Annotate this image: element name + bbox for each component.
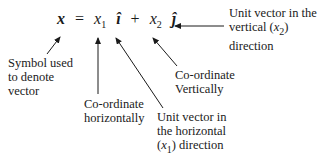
label-symbol: Symbol used to denote vector: [8, 56, 73, 98]
unit-vector-j: ĵ: [172, 10, 176, 27]
coord-x1: x1: [94, 10, 106, 27]
coord-x2: x2: [150, 10, 162, 27]
arrow-coord-v: [153, 38, 177, 66]
plus-sign: +: [131, 10, 140, 27]
unit-vector-i: î: [116, 10, 120, 27]
label-unit-horizontal: Unit vector in the horizontal (x1) direc…: [157, 110, 226, 157]
arrow-symbol: [47, 37, 60, 54]
vector-equation: x = x1 î + x2 ĵ: [57, 10, 176, 30]
label-coord-horizontal: Co-ordinate horizontally: [84, 97, 144, 125]
label-unit-vertical: Unit vector in the vertical (x2) directi…: [229, 6, 317, 53]
label-coord-vertical: Co-ordinate Vertically: [175, 68, 235, 96]
equals-sign: =: [75, 10, 84, 27]
vector-symbol: x: [57, 10, 65, 27]
